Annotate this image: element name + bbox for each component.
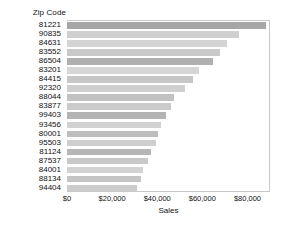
bar-row bbox=[67, 148, 269, 157]
category-label: 94404 bbox=[0, 183, 64, 192]
bar-row bbox=[67, 21, 269, 30]
x-axis-title: Sales bbox=[67, 206, 270, 215]
bar[interactable] bbox=[67, 85, 185, 92]
x-tick-label: $60,000 bbox=[189, 194, 216, 203]
bar[interactable] bbox=[67, 158, 148, 165]
x-axis-ticks: $0$20,000$40,000$60,000$80,000 bbox=[67, 192, 270, 206]
bar-row bbox=[67, 121, 269, 130]
bar-row bbox=[67, 166, 269, 175]
bar[interactable] bbox=[67, 40, 227, 47]
category-label: 90835 bbox=[0, 29, 64, 38]
bar-row bbox=[67, 75, 269, 84]
category-label: 95503 bbox=[0, 138, 64, 147]
bar-row bbox=[67, 30, 269, 39]
category-label: 83877 bbox=[0, 101, 64, 110]
category-label: 88134 bbox=[0, 174, 64, 183]
category-label: 92320 bbox=[0, 83, 64, 92]
category-label: 83552 bbox=[0, 47, 64, 56]
bar[interactable] bbox=[67, 131, 158, 138]
bar[interactable] bbox=[67, 176, 141, 183]
category-label: 84415 bbox=[0, 74, 64, 83]
chart-container: Zip Code 8122190835846318355286504832018… bbox=[0, 0, 282, 237]
bar-row bbox=[67, 93, 269, 102]
bar-row bbox=[67, 175, 269, 184]
category-label: 81124 bbox=[0, 147, 64, 156]
x-tick-label: $40,000 bbox=[144, 194, 171, 203]
bar[interactable] bbox=[67, 149, 151, 156]
category-label: 87537 bbox=[0, 156, 64, 165]
bar-row bbox=[67, 48, 269, 57]
category-label: 81221 bbox=[0, 20, 64, 29]
bar[interactable] bbox=[67, 167, 143, 174]
bar[interactable] bbox=[67, 49, 220, 56]
axis-header-zip-code: Zip Code bbox=[0, 8, 66, 17]
category-label: 83201 bbox=[0, 65, 64, 74]
x-tick-label: $0 bbox=[63, 194, 71, 203]
plot-area bbox=[67, 20, 270, 192]
bar[interactable] bbox=[67, 58, 213, 65]
bar[interactable] bbox=[67, 31, 239, 38]
bar[interactable] bbox=[67, 185, 137, 192]
category-label: 80001 bbox=[0, 129, 64, 138]
bar-row bbox=[67, 57, 269, 66]
category-label: 84001 bbox=[0, 165, 64, 174]
bar-row bbox=[67, 157, 269, 166]
bar[interactable] bbox=[67, 140, 156, 147]
bar-row bbox=[67, 102, 269, 111]
category-label: 84631 bbox=[0, 38, 64, 47]
category-label: 93456 bbox=[0, 120, 64, 129]
bar-row bbox=[67, 130, 269, 139]
x-tick-label: $20,000 bbox=[99, 194, 126, 203]
x-tick-label: $80,000 bbox=[234, 194, 261, 203]
category-axis-labels: 8122190835846318355286504832018441592320… bbox=[0, 20, 64, 192]
bar-row bbox=[67, 111, 269, 120]
bar[interactable] bbox=[67, 103, 171, 110]
bar[interactable] bbox=[67, 122, 161, 129]
bar-row bbox=[67, 139, 269, 148]
category-label: 86504 bbox=[0, 56, 64, 65]
category-label: 88044 bbox=[0, 92, 64, 101]
bar-row bbox=[67, 66, 269, 75]
category-label: 99403 bbox=[0, 110, 64, 119]
bar[interactable] bbox=[67, 22, 266, 29]
bar[interactable] bbox=[67, 76, 193, 83]
bar-row bbox=[67, 84, 269, 93]
bar[interactable] bbox=[67, 67, 199, 74]
bar[interactable] bbox=[67, 112, 166, 119]
bar[interactable] bbox=[67, 94, 174, 101]
bar-row bbox=[67, 39, 269, 48]
bars-group bbox=[67, 21, 269, 191]
